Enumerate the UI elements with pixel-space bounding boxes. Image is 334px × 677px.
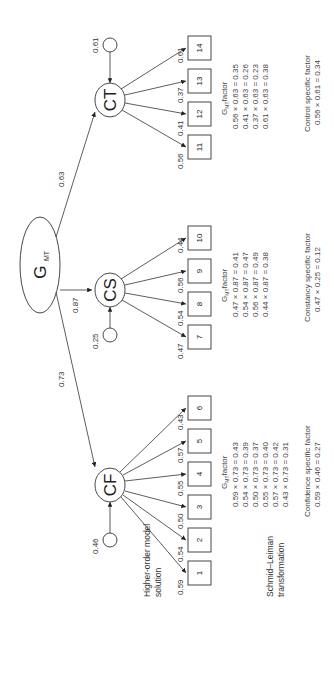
gmt-subscript: MT: [43, 250, 50, 261]
svg-text:10: 10: [195, 233, 204, 242]
cs-gmt-calcs: GMTfactor 0.47 × 0.87 = 0.41 0.54 × 0.87…: [220, 233, 322, 322]
svg-text:0.56: 0.56: [176, 153, 185, 169]
cf-specific-title: Confidence specific factor: [303, 425, 312, 517]
svg-text:0.61: 0.61: [176, 47, 185, 63]
svg-text:0.37 × 0.63 = 0.23: 0.37 × 0.63 = 0.23: [251, 64, 260, 129]
svg-text:0.55 × 0.73 = 0.40: 0.55 × 0.73 = 0.40: [261, 442, 270, 507]
svg-text:0.47 × 0.87 = 0.41: 0.47 × 0.87 = 0.41: [231, 252, 240, 317]
svg-text:0.59 × 0.73 = 0.43: 0.59 × 0.73 = 0.43: [231, 442, 240, 507]
svg-text:0.55: 0.55: [176, 480, 185, 496]
item-box-3: 3: [195, 504, 204, 509]
svg-text:GMTfactor: GMTfactor: [220, 81, 230, 115]
row-label-schmid-leiman: Schmid–Leiman: [265, 536, 275, 597]
factor-cf: CF: [95, 468, 125, 502]
item-box-5: 5: [195, 438, 204, 443]
ct-items: 11 12 13 14 0.56 0.41 0.37 0.61: [121, 36, 211, 169]
svg-text:0.54: 0.54: [176, 310, 185, 326]
loading-g-cf: 0.73: [57, 371, 66, 387]
svg-text:0.50: 0.50: [176, 513, 185, 529]
svg-text:0.50 × 0.73 = 0.37: 0.50 × 0.73 = 0.37: [251, 442, 260, 507]
svg-text:0.41: 0.41: [176, 120, 185, 136]
svg-text:0.56 × 0.87 = 0.49: 0.56 × 0.87 = 0.49: [251, 252, 260, 317]
svg-text:0.56 × 0.61 = 0.34: 0.56 × 0.61 = 0.34: [313, 60, 322, 125]
svg-text:0.59 × 0.46 = 0.27: 0.59 × 0.46 = 0.27: [313, 442, 322, 507]
svg-text:0.56: 0.56: [176, 277, 185, 293]
factor-ct: CT: [95, 83, 125, 117]
svg-text:0.54 × 0.73 = 0.39: 0.54 × 0.73 = 0.39: [241, 442, 250, 507]
cs-items: 7 8 9 10 0.47 0.54 0.56 0.44: [121, 226, 211, 359]
svg-text:13: 13: [195, 76, 204, 85]
svg-text:8: 8: [195, 301, 204, 306]
ct-specific-title: Control specific factor: [303, 55, 312, 132]
loading-g-cs: 0.87: [71, 297, 80, 313]
svg-text:0.43 × 0.73 = 0.31: 0.43 × 0.73 = 0.31: [281, 442, 290, 507]
ct-gmt-calcs: GMTfactor 0.56 × 0.63 = 0.35 0.41 × 0.63…: [220, 55, 322, 132]
cf-gmt-calcs: GMTfactor 0.59 × 0.73 = 0.43 0.54 × 0.73…: [220, 425, 322, 517]
cf-residual: 0.46: [91, 538, 100, 554]
cs-residual: 0.25: [91, 333, 100, 349]
item-box-2: 2: [195, 537, 204, 542]
svg-text:0.37: 0.37: [176, 87, 185, 103]
svg-text:0.44 × 0.87 = 0.38: 0.44 × 0.87 = 0.38: [261, 252, 270, 317]
svg-text:11: 11: [195, 142, 204, 151]
cf-items: 1 2 3 4 5 6 0.59 0.54 0.50 0.55 0.57 0.4…: [120, 396, 211, 595]
svg-text:GMTfactor: GMTfactor: [220, 455, 230, 489]
svg-text:0.57: 0.57: [176, 447, 185, 463]
ct-residual: 0.61: [91, 37, 100, 53]
cf-residual-circle: [103, 533, 117, 547]
row-label-higher-order: Higher-order model: [142, 524, 152, 597]
svg-text:transformation: transformation: [276, 542, 286, 597]
svg-text:0.43: 0.43: [176, 414, 185, 430]
svg-text:0.59: 0.59: [176, 579, 185, 595]
item-box-4: 4: [195, 471, 204, 476]
item-box-6: 6: [195, 405, 204, 410]
svg-text:0.44: 0.44: [176, 237, 185, 253]
svg-text:0.54: 0.54: [176, 546, 185, 562]
svg-text:12: 12: [195, 109, 204, 118]
svg-text:GMTfactor: GMTfactor: [220, 268, 230, 302]
svg-text:solution: solution: [153, 567, 163, 597]
ct-residual-circle: [103, 38, 117, 52]
loading-g-ct: 0.63: [57, 171, 66, 187]
item-box-1: 1: [195, 570, 204, 575]
cs-specific-title: Constancy specific factor: [303, 233, 312, 322]
svg-text:0.56 × 0.63 = 0.35: 0.56 × 0.63 = 0.35: [231, 64, 240, 129]
ct-label: CT: [101, 89, 120, 112]
svg-text:14: 14: [195, 43, 204, 52]
svg-text:0.47 × 0.25 = 0.12: 0.47 × 0.25 = 0.12: [313, 247, 322, 312]
svg-text:9: 9: [195, 268, 204, 273]
factor-cs: CS: [95, 273, 125, 307]
diagram-canvas: G MT 0.73 0.87 0.63 CF 0.46 CS 0.25 CT 0…: [0, 0, 334, 677]
general-factor-gmt: G MT: [20, 217, 60, 313]
cs-label: CS: [101, 278, 120, 302]
gmt-label: G: [31, 265, 50, 278]
svg-text:0.54 × 0.87 = 0.47: 0.54 × 0.87 = 0.47: [241, 252, 250, 317]
svg-text:0.61 × 0.63 = 0.38: 0.61 × 0.63 = 0.38: [261, 64, 270, 129]
cf-label: CF: [101, 474, 120, 497]
cs-residual-circle: [103, 328, 117, 342]
svg-text:0.47: 0.47: [176, 343, 185, 359]
svg-text:0.57 × 0.73 = 0.42: 0.57 × 0.73 = 0.42: [271, 442, 280, 507]
svg-text:0.41 × 0.63 = 0.26: 0.41 × 0.63 = 0.26: [241, 64, 250, 129]
svg-text:7: 7: [195, 334, 204, 339]
